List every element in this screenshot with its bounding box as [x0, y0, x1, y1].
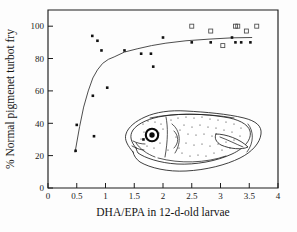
data-point [74, 149, 77, 152]
data-point [106, 86, 109, 89]
fish-eye-pupil [149, 132, 154, 137]
x-tick-label-3_5: 3.5 [244, 191, 256, 201]
figure-container: 0 20 40 60 80 100 0 0.5 1 1.5 2 2.5 3 [0, 0, 297, 232]
data-point [91, 35, 94, 38]
x-tick-label-0_5: 0.5 [71, 191, 83, 201]
data-point [93, 135, 96, 138]
data-point [231, 36, 234, 39]
turbot-fry-illustration [125, 111, 261, 171]
x-tick-label-3: 3 [218, 191, 223, 201]
data-point [100, 49, 103, 52]
x-tick-label-2_5: 2.5 [186, 191, 198, 201]
x-tick-label-1_5: 1.5 [129, 191, 141, 201]
data-point [240, 41, 243, 44]
data-point [190, 41, 193, 44]
data-point [244, 29, 248, 33]
data-point [249, 41, 252, 44]
x-tick-label-1: 1 [103, 191, 108, 201]
y-tick-label-40: 40 [35, 119, 45, 129]
data-point [209, 41, 212, 44]
x-axis-title: DHA/EPA in 12-d-old larvae [96, 206, 229, 218]
data-point [234, 41, 237, 44]
y-tick-label-60: 60 [35, 86, 45, 96]
data-point [150, 52, 153, 55]
data-point [152, 65, 155, 68]
data-point [123, 49, 126, 52]
data-point [142, 138, 145, 141]
data-point [190, 24, 194, 28]
x-tick-label-4: 4 [276, 191, 281, 201]
y-tick-label-100: 100 [31, 21, 45, 31]
x-tick-label-0: 0 [46, 191, 51, 201]
data-point [75, 124, 78, 127]
y-axis-ticks [48, 26, 53, 188]
chart-canvas: 0 20 40 60 80 100 0 0.5 1 1.5 2 2.5 3 [0, 0, 297, 232]
x-tick-label-2: 2 [161, 191, 166, 201]
series-open-squares [190, 24, 259, 47]
data-point [221, 44, 225, 48]
x-axis-ticks [48, 183, 278, 188]
y-tick-label-0: 0 [40, 183, 45, 193]
data-point [96, 39, 99, 42]
x-axis-tick-labels: 0 0.5 1 1.5 2 2.5 3 3.5 4 [46, 191, 281, 201]
y-tick-label-80: 80 [35, 54, 45, 64]
data-point [209, 29, 213, 33]
data-point [162, 36, 165, 39]
data-point [140, 52, 143, 55]
data-point [255, 24, 259, 28]
y-axis-tick-labels: 0 20 40 60 80 100 [31, 21, 45, 193]
data-point [92, 94, 95, 97]
y-axis-title: % Normal pigmenet turbot fry [4, 29, 17, 169]
y-tick-label-20: 20 [35, 151, 45, 161]
